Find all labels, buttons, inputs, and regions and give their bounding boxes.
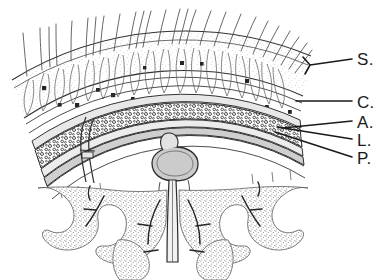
label-pia: P. xyxy=(357,150,371,167)
follicle-bulb xyxy=(58,103,62,107)
arachnoid-trabecula xyxy=(252,174,253,184)
label-cranium: C. xyxy=(357,94,375,111)
arachnoid-trabecula xyxy=(272,172,273,182)
follicle-bulb xyxy=(245,79,249,83)
leader-line-S xyxy=(303,57,352,74)
follicle-bulb xyxy=(200,62,204,66)
label-skin: S. xyxy=(357,51,374,68)
follicle-bulb xyxy=(180,61,184,65)
follicle-bulb xyxy=(143,66,146,69)
cortical-vein-branch-left xyxy=(84,209,96,210)
anatomy-diagram xyxy=(0,0,384,280)
vein-lumen-node xyxy=(82,152,93,158)
follicle-bulb xyxy=(288,110,292,114)
label-arachnoid: A. xyxy=(357,114,374,131)
follicle-bulb xyxy=(42,86,46,90)
figure-canvas: S. C. A. L. P. xyxy=(0,0,384,280)
cortical-vein-branch-right xyxy=(250,209,262,210)
label-leptomeninx: L. xyxy=(357,132,372,149)
arachnoid-trabecula xyxy=(290,170,291,180)
hair-shaft xyxy=(23,33,27,76)
follicle-bulb xyxy=(96,88,100,92)
